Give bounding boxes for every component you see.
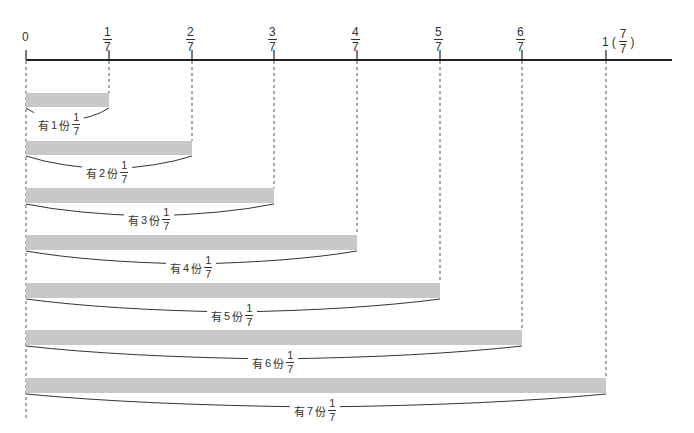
brace-label-6: 有 6 份 1 7: [248, 350, 298, 375]
suffix-text: 份: [59, 117, 70, 133]
prefix-text: 有: [294, 403, 305, 419]
suffix-text: 份: [232, 308, 243, 324]
brace-label-5: 有 5 份 1 7: [207, 303, 257, 328]
denominator: 7: [268, 40, 277, 53]
bar-3: [26, 188, 274, 203]
denominator: 7: [620, 42, 627, 55]
numerator: 4: [351, 26, 360, 40]
suffix-text: 份: [191, 260, 202, 276]
count-text: 6: [265, 357, 271, 369]
prefix-text: 有: [252, 355, 263, 371]
numerator: 1: [103, 26, 112, 40]
unit-fraction: 1 7: [120, 160, 128, 185]
numerator: 1: [245, 303, 253, 316]
count-text: 1: [51, 119, 57, 131]
count-text: 2: [99, 167, 105, 179]
fraction-bars: [26, 93, 606, 393]
numerator: 7: [619, 28, 628, 42]
denominator: 7: [287, 363, 293, 375]
suffix-text: 份: [149, 212, 160, 228]
tick-label-1-7: 1 7: [103, 26, 112, 53]
numerator: 5: [434, 26, 443, 40]
tick-label-6-7: 6 7: [516, 26, 525, 53]
denominator: 7: [246, 316, 252, 328]
bar-7: [26, 378, 606, 393]
tick-label-4-7: 4 7: [351, 26, 360, 53]
unit-fraction: 1 7: [72, 112, 80, 137]
brace-label-7: 有 7 份 1 7: [290, 398, 340, 423]
count-text: 7: [307, 405, 313, 417]
numerator: 1: [120, 160, 128, 173]
bar-5: [26, 283, 440, 298]
numerator: 2: [186, 26, 195, 40]
unit-fraction: 1 7: [286, 350, 294, 375]
denominator: 7: [103, 40, 112, 53]
brace-label-1: 有 1 份 1 7: [34, 112, 84, 137]
bar-6: [26, 330, 522, 345]
unit-fraction: 1 7: [328, 398, 336, 423]
seven-sevenths: 7 7: [619, 28, 628, 55]
denominator: 7: [121, 173, 127, 185]
numerator: 1: [204, 255, 212, 268]
unit-fraction: 1 7: [162, 207, 170, 232]
numerator: 1: [72, 112, 80, 125]
number-line-diagram: [0, 0, 694, 433]
denominator: 7: [351, 40, 360, 53]
prefix-text: 有: [38, 117, 49, 133]
denominator: 7: [163, 220, 169, 232]
count-text: 5: [224, 310, 230, 322]
numerator: 1: [328, 398, 336, 411]
count-text: 3: [141, 214, 147, 226]
suffix-text: 份: [107, 165, 118, 181]
unit-fraction: 1 7: [204, 255, 212, 280]
open-paren: (: [612, 35, 616, 49]
zero-label: 0: [22, 30, 29, 44]
prefix-text: 有: [86, 165, 97, 181]
prefix-text: 有: [211, 308, 222, 324]
denominator: 7: [434, 40, 443, 53]
tick-label-3-7: 3 7: [268, 26, 277, 53]
tick-label-5-7: 5 7: [434, 26, 443, 53]
numerator: 6: [516, 26, 525, 40]
numerator: 3: [268, 26, 277, 40]
close-paren: ): [630, 35, 634, 49]
brace-label-3: 有 3 份 1 7: [124, 207, 174, 232]
bar-1: [26, 93, 109, 107]
suffix-text: 份: [315, 403, 326, 419]
prefix-text: 有: [128, 212, 139, 228]
denominator: 7: [186, 40, 195, 53]
bar-4: [26, 235, 357, 250]
suffix-text: 份: [273, 355, 284, 371]
denominator: 7: [329, 411, 335, 423]
prefix-text: 有: [170, 260, 181, 276]
unit-fraction: 1 7: [245, 303, 253, 328]
numerator: 1: [286, 350, 294, 363]
denominator: 7: [205, 268, 211, 280]
denominator: 7: [516, 40, 525, 53]
count-text: 4: [183, 262, 189, 274]
tick-label-one: 1 ( 7 7 ): [602, 28, 634, 55]
whole-number: 1: [602, 35, 609, 49]
tick-label-2-7: 2 7: [186, 26, 195, 53]
brace-label-4: 有 4 份 1 7: [166, 255, 216, 280]
brace-label-2: 有 2 份 1 7: [82, 160, 132, 185]
bar-2: [26, 141, 192, 155]
denominator: 7: [73, 125, 79, 137]
numerator: 1: [162, 207, 170, 220]
